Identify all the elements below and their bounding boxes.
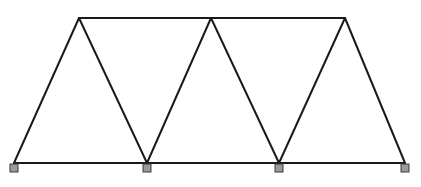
diagonal-member: [345, 18, 405, 163]
support-square-icon: [401, 164, 409, 172]
diagonal-member: [14, 18, 79, 163]
truss-members: [14, 18, 405, 163]
support-square-icon: [275, 164, 283, 172]
support-square-icon: [10, 164, 18, 172]
diagonal-member: [279, 18, 345, 163]
support-square-icon: [143, 164, 151, 172]
diagonal-member: [211, 18, 279, 163]
diagonal-member: [147, 18, 211, 163]
diagonal-member: [79, 18, 147, 163]
truss-supports: [10, 164, 409, 172]
truss-diagram: [0, 0, 421, 187]
